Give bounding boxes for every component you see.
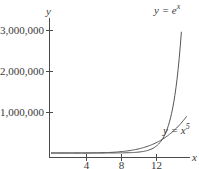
x-tick-label: 8 [119, 159, 125, 169]
x-axis-label: x [191, 151, 197, 163]
x-tick-label: 4 [84, 159, 90, 169]
y-tick-label: 3,000,000 [0, 24, 45, 36]
exponential-curve [51, 32, 181, 153]
exponential-curve-label: y = ex [153, 2, 181, 16]
power-curve-label: y = x5 [162, 122, 190, 136]
y-axis-label: y [45, 5, 51, 17]
x-ticks: 4 8 12 [84, 154, 162, 169]
y-tick-label: 1,000,000 [0, 106, 45, 118]
chart: y x 1,000,000 2,000,000 3,000,000 4 8 12… [0, 0, 199, 169]
y-tick-label: 2,000,000 [0, 65, 45, 77]
x-tick-label: 12 [151, 159, 162, 169]
y-ticks: 1,000,000 2,000,000 3,000,000 [0, 24, 53, 118]
